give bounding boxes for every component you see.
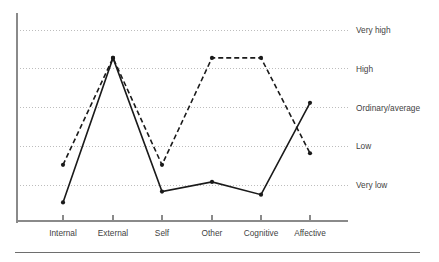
gridline-group: Ordinary/average (20, 103, 420, 113)
y-tick-label-1: High (356, 64, 373, 74)
chart-container: Very highHighOrdinary/averageLowVery low… (0, 0, 439, 262)
x-tick-label-other: Other (202, 228, 223, 238)
y-tick-label-4: Very low (356, 180, 388, 190)
gridline-group: Very high (20, 25, 391, 35)
gridline-group: High (20, 64, 373, 74)
x-tick-label-internal: Internal (49, 228, 77, 238)
data-point-dashed-line-self (160, 163, 164, 167)
data-point-dashed-line-cognitive (259, 56, 263, 60)
x-tick-label-cognitive: Cognitive (244, 228, 279, 238)
y-tick-label-3: Low (356, 141, 372, 151)
data-point-dashed-line-external (111, 56, 115, 60)
x-tick-label-self: Self (155, 228, 170, 238)
y-tick-label-0: Very high (356, 25, 391, 35)
series-line-dashed-line (63, 58, 310, 165)
figure-bottom-rule (15, 252, 420, 253)
x-tick-label-external: External (98, 228, 129, 238)
line-chart: Very highHighOrdinary/averageLowVery low… (0, 0, 439, 262)
data-point-dashed-line-affective (308, 151, 312, 155)
data-point-solid-line-other (210, 180, 214, 184)
data-point-solid-line-internal (61, 200, 65, 204)
x-tick-label-affective: Affective (294, 228, 326, 238)
gridline-group: Very low (20, 180, 388, 190)
data-point-solid-line-affective (308, 101, 312, 105)
y-tick-label-2: Ordinary/average (356, 103, 420, 113)
data-point-solid-line-cognitive (259, 193, 263, 197)
data-point-solid-line-self (160, 189, 164, 193)
data-point-dashed-line-other (210, 56, 214, 60)
data-point-dashed-line-internal (61, 163, 65, 167)
